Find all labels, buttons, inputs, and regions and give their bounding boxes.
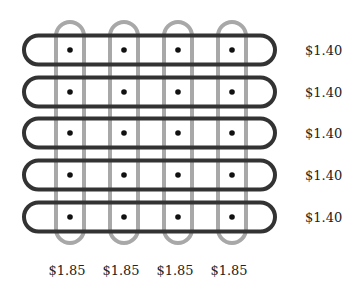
- intersection-dot: [121, 47, 127, 53]
- vertical-gray-loops: [56, 22, 246, 243]
- horizontal-loop: [24, 78, 275, 107]
- intersection-dot: [67, 47, 73, 53]
- loop-grid-diagram: $1.40$1.40$1.40$1.40$1.40 $1.85$1.85$1.8…: [0, 0, 360, 298]
- row-price-label: $1.40: [305, 85, 342, 100]
- row-price-labels: $1.40$1.40$1.40$1.40$1.40: [305, 43, 342, 225]
- intersection-dot: [175, 89, 181, 95]
- intersection-dot: [67, 172, 73, 178]
- intersection-dot: [121, 89, 127, 95]
- intersection-dot: [121, 214, 127, 220]
- row-price-label: $1.40: [305, 168, 342, 183]
- horizontal-loop: [24, 161, 275, 190]
- intersection-dot: [229, 89, 235, 95]
- intersection-dots: [67, 47, 235, 220]
- intersection-dot: [175, 214, 181, 220]
- row-price-label: $1.40: [305, 210, 342, 225]
- intersection-dot: [67, 130, 73, 136]
- horizontal-dark-loops: [24, 36, 275, 232]
- intersection-dot: [121, 130, 127, 136]
- column-price-label: $1.85: [210, 263, 247, 278]
- intersection-dot: [229, 130, 235, 136]
- intersection-dot: [229, 47, 235, 53]
- intersection-dot: [229, 172, 235, 178]
- column-price-label: $1.85: [156, 263, 193, 278]
- column-price-label: $1.85: [48, 263, 85, 278]
- intersection-dot: [175, 172, 181, 178]
- horizontal-loop: [24, 36, 275, 65]
- intersection-dot: [67, 214, 73, 220]
- row-price-label: $1.40: [305, 126, 342, 141]
- intersection-dot: [67, 89, 73, 95]
- horizontal-loop: [24, 203, 275, 232]
- horizontal-loop: [24, 119, 275, 148]
- row-price-label: $1.40: [305, 43, 342, 58]
- intersection-dot: [121, 172, 127, 178]
- column-price-labels: $1.85$1.85$1.85$1.85: [48, 263, 247, 278]
- intersection-dot: [229, 214, 235, 220]
- intersection-dot: [175, 130, 181, 136]
- intersection-dot: [175, 47, 181, 53]
- column-price-label: $1.85: [102, 263, 139, 278]
